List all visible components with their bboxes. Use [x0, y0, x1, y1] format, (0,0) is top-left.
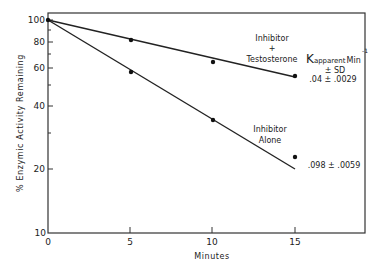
k-value-testosterone: .04 ± .0029: [309, 75, 356, 84]
y-axis: [48, 20, 53, 169]
x-axis-title: Minutes: [194, 252, 230, 261]
label-testosterone-2: +: [269, 44, 276, 53]
chart: 100 80 60 40 20 10 0 5 10 15 Minutes % E…: [0, 0, 382, 271]
x-tick-15: 15: [289, 237, 300, 247]
label-inhibitor-alone-2: Alone: [259, 136, 282, 145]
label-inhibitor-alone-1: Inhibitor: [253, 125, 287, 134]
x-tick-0: 0: [45, 237, 51, 247]
label-testosterone-1: Inhibitor: [255, 34, 289, 43]
y-tick-80: 80: [34, 37, 46, 47]
y-axis-title: % Enzymic Activity Remaining: [16, 54, 25, 192]
k-value-inhibitor-alone: .098 ± .0059: [308, 161, 361, 170]
x-axis: [130, 227, 295, 233]
x-tick-5: 5: [127, 237, 133, 247]
fit-line-testosterone: [48, 20, 295, 77]
y-tick-20: 20: [34, 164, 46, 174]
label-testosterone-3: Testosterone: [246, 55, 298, 64]
x-tick-10: 10: [206, 237, 218, 247]
plot-frame: [48, 13, 365, 233]
k-unit-exponent: -1: [362, 47, 368, 54]
k-apparent-header: KapparentMin: [306, 52, 361, 66]
y-tick-40: 40: [34, 101, 46, 111]
sd-label: ± SD: [325, 66, 345, 75]
y-tick-60: 60: [34, 63, 46, 73]
y-tick-100: 100: [28, 15, 45, 25]
